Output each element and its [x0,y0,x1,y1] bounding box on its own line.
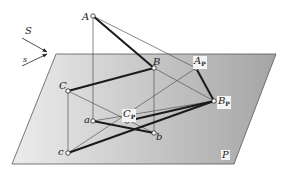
label-S: S [25,26,32,36]
point-A-marker [91,14,95,18]
label-Bp: BP [217,96,231,109]
point-c-marker [66,151,70,155]
label-b: b [156,132,162,142]
direction-arrow-S [22,38,47,52]
label-Ap: AP [193,56,207,69]
label-Cp-sub: P [131,113,136,120]
label-Ap-sub: P [201,60,206,67]
label-a: a [84,115,90,125]
point-a-marker [91,119,95,123]
label-A: A [82,12,89,22]
label-Cp: CP [122,109,136,122]
projection-diagram [0,0,288,175]
label-B: B [153,57,160,67]
label-Cp-main: C [123,108,131,119]
label-s: s [23,55,27,65]
point-Bp-marker [212,99,216,103]
label-C: C [59,81,67,91]
label-plane-P: P [221,150,230,160]
label-c: c [58,147,64,157]
label-Bp-sub: P [225,100,230,107]
